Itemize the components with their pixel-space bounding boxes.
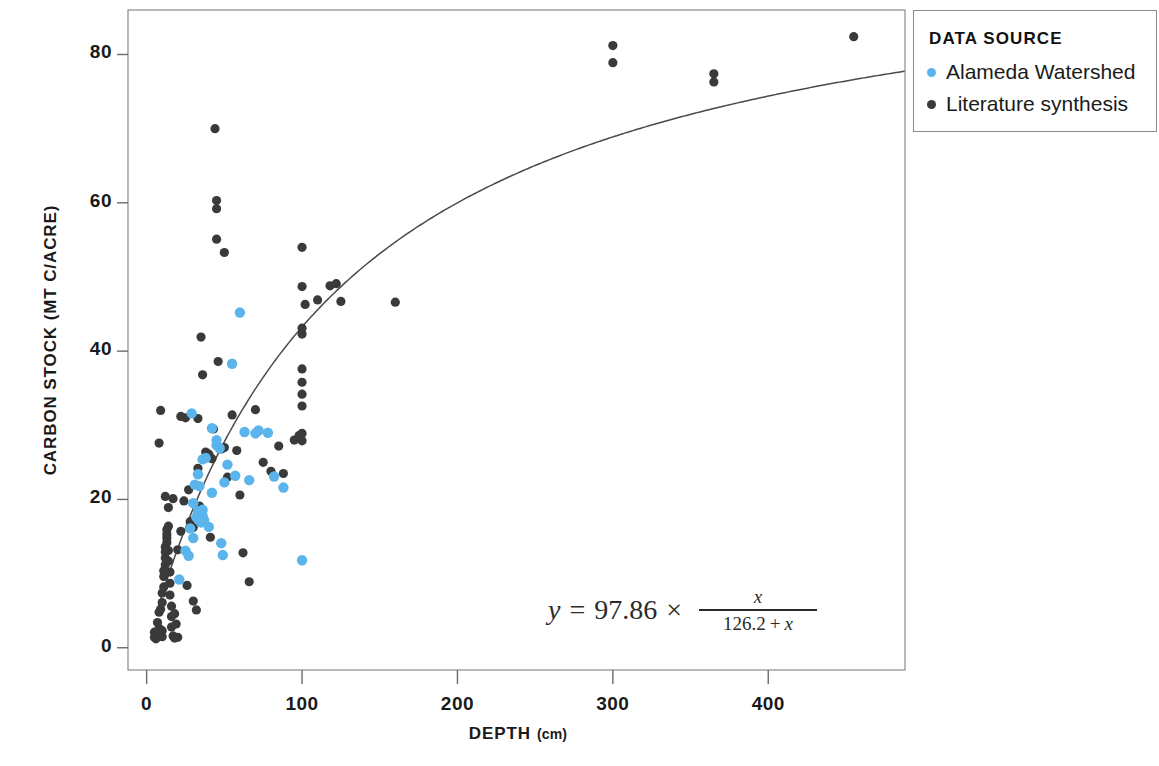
x-axis-tick-label: 300 xyxy=(563,693,663,715)
x-axis-label-text: DEPTH xyxy=(469,724,531,743)
data-point xyxy=(212,204,221,213)
data-point xyxy=(608,41,617,50)
data-point xyxy=(216,538,226,548)
data-point xyxy=(158,632,167,641)
data-point xyxy=(336,297,345,306)
data-point xyxy=(251,405,260,414)
data-point xyxy=(218,550,228,560)
data-point xyxy=(253,425,263,435)
data-point xyxy=(164,546,173,555)
data-point xyxy=(204,522,214,532)
fit-equation-annotation: y = 97.86 × x 126.2+x xyxy=(548,586,817,635)
scatter-chart-figure: CARBON STOCK (MT C/ACRE) DEPTH(cm) 80604… xyxy=(0,0,1159,766)
legend-item-literature-synthesis[interactable]: Literature synthesis xyxy=(927,92,1128,116)
series-alameda-watershed xyxy=(174,307,307,584)
data-point xyxy=(278,482,288,492)
data-point xyxy=(259,458,268,467)
data-point xyxy=(165,591,174,600)
data-point xyxy=(297,436,306,445)
data-point xyxy=(214,357,223,366)
data-point xyxy=(206,533,215,542)
data-point xyxy=(235,490,244,499)
legend-item-label: Alameda Watershed xyxy=(946,60,1135,84)
data-point xyxy=(196,332,205,341)
x-axis-tick-label: 400 xyxy=(718,693,818,715)
plot-frame xyxy=(128,10,905,670)
data-point xyxy=(227,359,237,369)
equation-times: × xyxy=(666,594,682,626)
x-axis-tick-label: 100 xyxy=(252,693,352,715)
equation-equals: = xyxy=(569,594,585,626)
series-literature-synthesis xyxy=(150,32,859,643)
data-point xyxy=(168,494,177,503)
data-point xyxy=(172,619,181,628)
data-point xyxy=(332,279,341,288)
legend-title: DATA SOURCE xyxy=(929,29,1063,49)
data-point xyxy=(154,438,163,447)
equation-fraction: x 126.2+x xyxy=(699,586,817,635)
x-axis-tick-label: 0 xyxy=(97,693,197,715)
data-point xyxy=(188,533,198,543)
y-axis-tick-label: 0 xyxy=(58,635,112,657)
data-point xyxy=(608,58,617,67)
data-point xyxy=(158,598,167,607)
data-point xyxy=(210,124,219,133)
data-point xyxy=(193,469,203,479)
data-point xyxy=(232,446,241,455)
x-axis-label-unit: (cm) xyxy=(537,726,567,742)
data-point xyxy=(297,364,306,373)
data-point xyxy=(297,555,307,565)
data-point xyxy=(164,522,173,531)
legend-item-alameda-watershed[interactable]: Alameda Watershed xyxy=(927,60,1135,84)
data-point xyxy=(198,370,207,379)
x-axis-label: DEPTH(cm) xyxy=(128,724,908,744)
data-point xyxy=(709,69,718,78)
data-point xyxy=(197,454,207,464)
data-point xyxy=(161,492,170,501)
data-point xyxy=(207,423,217,433)
data-point xyxy=(182,581,191,590)
data-point xyxy=(194,481,204,491)
y-axis-tick-label: 20 xyxy=(58,486,112,508)
data-point xyxy=(222,459,232,469)
data-point xyxy=(297,378,306,387)
data-point xyxy=(230,471,240,481)
data-point xyxy=(187,408,197,418)
legend-swatch-icon xyxy=(927,68,936,77)
data-point xyxy=(245,577,254,586)
equation-denominator: 126.2+x xyxy=(717,611,799,635)
data-point xyxy=(220,248,229,257)
data-point xyxy=(165,568,174,577)
data-point xyxy=(183,551,193,561)
equation-denominator-plus: + xyxy=(770,613,781,634)
data-point xyxy=(189,596,198,605)
data-point xyxy=(192,605,201,614)
data-point xyxy=(197,505,207,515)
data-point xyxy=(165,579,174,588)
data-point xyxy=(164,556,173,565)
y-axis-tick-label: 40 xyxy=(58,338,112,360)
data-point xyxy=(244,475,254,485)
data-point xyxy=(269,471,279,481)
data-point xyxy=(274,441,283,450)
data-point xyxy=(849,32,858,41)
equation-numerator: x xyxy=(748,586,768,609)
data-point xyxy=(297,243,306,252)
data-point xyxy=(239,427,249,437)
data-point xyxy=(238,548,247,557)
data-point xyxy=(214,443,224,453)
data-point xyxy=(279,469,288,478)
data-point xyxy=(391,298,400,307)
data-point xyxy=(313,295,322,304)
equation-lhs: y xyxy=(548,594,560,626)
data-point xyxy=(174,574,184,584)
data-point xyxy=(207,488,217,498)
equation-denominator-const: 126.2 xyxy=(723,613,766,634)
fit-curve xyxy=(158,71,905,609)
data-point xyxy=(212,235,221,244)
data-point xyxy=(170,609,179,618)
data-point xyxy=(176,527,185,536)
equation-coefficient: 97.86 xyxy=(594,594,657,626)
legend: DATA SOURCE Alameda Watershed Literature… xyxy=(913,10,1157,132)
data-point xyxy=(297,401,306,410)
